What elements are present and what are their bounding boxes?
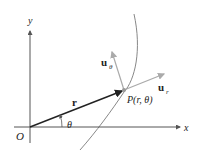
y-axis-label: y [27,15,33,26]
x-axis-label: x [183,122,189,133]
u-theta-label: u θ [101,56,113,71]
svg-text:u: u [158,81,164,93]
radius-label: r [72,96,77,108]
svg-text:r: r [166,88,169,96]
origin-label: O [16,130,24,142]
u-r-label: u r [158,81,169,96]
polar-diagram: y x O r θ P(r, θ) u r u θ [0,0,203,156]
point-label: P(r, θ) [126,94,153,106]
svg-text:u: u [101,56,107,68]
point-p [122,88,126,92]
u-theta-vector [112,52,124,90]
angle-label: θ [67,119,72,130]
svg-text:θ: θ [109,63,113,71]
curve [80,14,137,150]
angle-arc [60,115,62,127]
